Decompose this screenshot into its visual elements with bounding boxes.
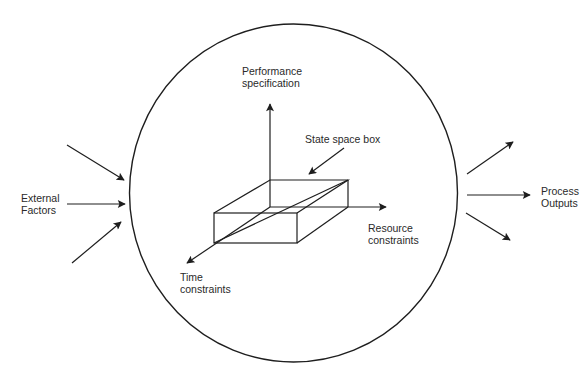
outputs-label-line2: Outputs bbox=[541, 197, 579, 209]
external-factors-label: External Factors bbox=[21, 192, 60, 216]
external-label-line1: External bbox=[21, 192, 60, 204]
output-arrow-bottom bbox=[466, 213, 510, 240]
resource-constraints-label: Resource constraints bbox=[368, 222, 419, 246]
performance-specification-label: Performance specification bbox=[242, 65, 302, 89]
resource-label-line1: Resource bbox=[368, 222, 419, 234]
outputs-label-line1: Process bbox=[541, 185, 579, 197]
time-axis-arrow bbox=[187, 207, 270, 263]
external-label-line2: Factors bbox=[21, 204, 60, 216]
input-arrow-bottom bbox=[72, 222, 121, 263]
time-label-line1: Time bbox=[180, 271, 231, 283]
state-space-box-label: State space box bbox=[305, 133, 380, 145]
time-label-line2: constraints bbox=[180, 283, 231, 295]
performance-label-line1: Performance bbox=[242, 65, 302, 77]
process-outputs-label: Process Outputs bbox=[541, 185, 579, 209]
output-arrow-top bbox=[467, 142, 513, 174]
state-space-box-label-text: State space box bbox=[305, 133, 380, 145]
time-constraints-label: Time constraints bbox=[180, 271, 231, 295]
resource-label-line2: constraints bbox=[368, 234, 419, 246]
input-arrow-top bbox=[67, 145, 124, 180]
diagram-canvas bbox=[0, 0, 585, 369]
state-space-box-pointer-arrow bbox=[309, 148, 344, 174]
state-space-box bbox=[214, 180, 348, 243]
performance-label-line2: specification bbox=[242, 77, 302, 89]
